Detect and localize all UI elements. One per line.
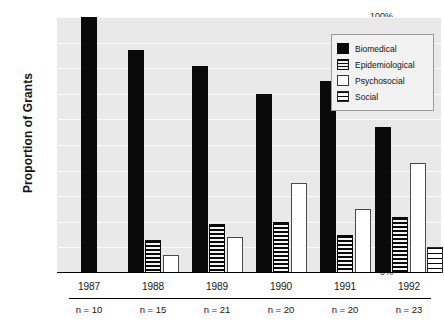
group-sample-size-label: n = 10 xyxy=(57,304,121,315)
bar-epidemiological xyxy=(273,222,289,273)
bar-epidemiological xyxy=(209,224,225,273)
x-axis-tick-label: 1988 xyxy=(121,281,185,292)
group-sample-size-label: n = 21 xyxy=(185,304,249,315)
bar-psychosocial xyxy=(163,255,179,273)
bar-biomedical xyxy=(128,50,144,273)
bar-group xyxy=(249,17,313,273)
legend-swatch-epidemiological xyxy=(337,59,349,70)
x-axis-tick-label: 1990 xyxy=(249,281,313,292)
bar-biomedical xyxy=(81,17,97,273)
bar-psychosocial xyxy=(227,237,243,273)
chart-legend: BiomedicalEpidemiologicalPsychosocialSoc… xyxy=(331,34,434,111)
x-axis-tick-label: 1991 xyxy=(313,281,377,292)
bar-group xyxy=(185,17,249,273)
legend-item-biomedical: Biomedical xyxy=(337,41,429,56)
n-separator-rule xyxy=(69,298,431,299)
group-sample-size-label: n = 20 xyxy=(249,304,313,315)
x-axis-tick-label: 1992 xyxy=(377,281,441,292)
x-axis-tick-label: 1987 xyxy=(57,281,121,292)
bar-psychosocial xyxy=(410,163,426,273)
bar-epidemiological xyxy=(392,217,408,273)
legend-swatch-social xyxy=(337,91,349,102)
legend-label: Biomedical xyxy=(355,44,397,54)
legend-label: Social xyxy=(355,92,378,102)
x-axis-line xyxy=(57,272,441,273)
legend-label: Psychosocial xyxy=(355,76,405,86)
bar-psychosocial xyxy=(355,209,371,273)
legend-swatch-psychosocial xyxy=(337,75,349,86)
bar-epidemiological xyxy=(145,240,161,273)
group-sample-size-label: n = 20 xyxy=(313,304,377,315)
legend-swatch-biomedical xyxy=(337,43,349,54)
bar-biomedical xyxy=(375,127,391,273)
chart-figure: Proportion of Grants 0%10%20%30%40%50%60… xyxy=(0,0,444,326)
legend-item-psychosocial: Psychosocial xyxy=(337,73,429,88)
bar-social xyxy=(427,247,443,273)
bar-biomedical xyxy=(256,94,272,273)
legend-item-epidemiological: Epidemiological xyxy=(337,57,429,72)
bar-epidemiological xyxy=(337,235,353,273)
bar-biomedical xyxy=(192,66,208,273)
bar-group xyxy=(121,17,185,273)
legend-label: Epidemiological xyxy=(355,60,415,70)
y-axis-title: Proportion of Grants xyxy=(21,43,35,223)
group-sample-size-label: n = 23 xyxy=(377,304,441,315)
x-axis-tick-label: 1989 xyxy=(185,281,249,292)
bar-group xyxy=(57,17,121,273)
legend-item-social: Social xyxy=(337,89,429,104)
bar-psychosocial xyxy=(291,183,307,273)
group-sample-size-label: n = 15 xyxy=(121,304,185,315)
